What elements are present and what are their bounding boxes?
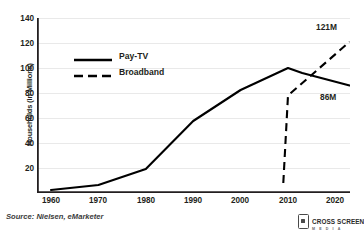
legend-item-broadband: Broadband: [74, 64, 194, 80]
x-tick-1960: 1960: [31, 196, 71, 205]
logo-name: CROSS SCREEN: [312, 218, 364, 225]
mobile-device-icon: [298, 214, 309, 229]
x-axis-tick-labels: 1960 1970 1980 1990 2000 2010 2020: [0, 196, 357, 208]
x-tick-1970: 1970: [78, 196, 118, 205]
y-tick-100: 100: [12, 64, 34, 73]
series-line-broadband: [283, 42, 349, 183]
logo-wordmark: CROSS SCREEN M E D I A: [312, 211, 364, 232]
legend-swatch-dashed: [74, 67, 112, 77]
legend-item-pay-tv: Pay-TV: [74, 48, 194, 64]
y-tick-120: 120: [12, 39, 34, 48]
legend-label-broadband: Broadband: [119, 67, 164, 77]
legend-label-pay-tv: Pay-TV: [119, 51, 148, 61]
y-tick-20: 20: [12, 164, 34, 173]
y-tick-60: 60: [12, 114, 34, 123]
annotation-pay-tv-value: 86M: [320, 92, 336, 102]
chart-legend: Pay-TV Broadband: [74, 48, 194, 80]
gridlines: [37, 19, 350, 169]
cross-screen-media-logo: CROSS SCREEN M E D I A: [298, 211, 364, 232]
x-tick-2010: 2010: [268, 196, 308, 205]
x-tick-2020: 2020: [315, 196, 355, 205]
series-line-pay-tv: [51, 68, 350, 190]
x-tick-1980: 1980: [126, 196, 166, 205]
source-note: Source: Nielsen, eMarketer: [6, 212, 104, 221]
annotation-broadband-value: 121M: [316, 22, 337, 32]
x-tick-2000: 2000: [220, 196, 260, 205]
legend-swatch-solid: [74, 51, 112, 61]
x-tick-1990: 1990: [173, 196, 213, 205]
y-tick-80: 80: [12, 89, 34, 98]
y-tick-140: 140: [12, 14, 34, 23]
logo-subtitle: M E D I A: [312, 228, 364, 232]
y-tick-40: 40: [12, 139, 34, 148]
plot-area: [37, 18, 350, 193]
